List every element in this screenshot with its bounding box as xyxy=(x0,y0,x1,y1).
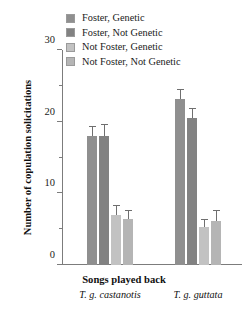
error-bar xyxy=(204,220,205,227)
y-tick-major xyxy=(57,192,62,193)
error-bar-cap xyxy=(177,89,184,90)
legend-item: Foster, Not Genetic xyxy=(66,26,242,41)
y-tick-minor xyxy=(59,228,63,229)
bar xyxy=(175,99,185,265)
bar xyxy=(99,136,109,265)
y-tick-major xyxy=(57,264,62,265)
error-bar-cap xyxy=(101,124,108,125)
y-tick-label: 20 xyxy=(45,105,56,116)
y-tick-major xyxy=(57,121,62,122)
y-tick-minor xyxy=(59,85,63,86)
species-label: T. g. guttata xyxy=(173,289,222,300)
error-bar xyxy=(116,206,117,215)
y-tick-label: 0 xyxy=(50,249,55,260)
bar xyxy=(123,219,133,265)
y-tick-label: 30 xyxy=(45,34,56,45)
bar xyxy=(187,118,197,265)
legend-item: Foster, Genetic xyxy=(66,11,242,26)
error-bar xyxy=(92,127,93,136)
y-tick-label: 10 xyxy=(45,177,56,188)
species-labels: T. g. castanotisT. g. guttata xyxy=(0,289,248,305)
legend-swatch-icon xyxy=(66,14,75,23)
error-bar xyxy=(192,109,193,118)
error-bar-cap xyxy=(201,219,208,220)
species-label: T. g. castanotis xyxy=(79,289,141,300)
bar xyxy=(87,136,97,265)
error-bar-cap xyxy=(213,210,220,211)
error-bar xyxy=(180,90,181,99)
bar xyxy=(199,227,209,265)
error-bar xyxy=(104,125,105,136)
bar xyxy=(211,221,221,265)
error-bar-cap xyxy=(125,210,132,211)
y-axis-line xyxy=(62,50,63,265)
error-bar-cap xyxy=(189,108,196,109)
legend-item-label: Foster, Not Genetic xyxy=(82,28,163,38)
error-bar-cap xyxy=(113,205,120,206)
plot-area: 0102030 xyxy=(62,50,242,265)
x-axis-title: Songs played back xyxy=(0,274,248,285)
chart-figure: Foster, GeneticFoster, Not GeneticNot Fo… xyxy=(0,0,248,314)
y-axis-title: Number of copulation solicitations xyxy=(22,50,38,265)
legend-swatch-icon xyxy=(66,28,75,37)
error-bar xyxy=(216,211,217,222)
legend-item-label: Foster, Genetic xyxy=(82,13,145,23)
bar xyxy=(111,215,121,265)
error-bar-cap xyxy=(89,126,96,127)
y-tick-minor xyxy=(59,157,63,158)
error-bar xyxy=(128,211,129,220)
y-tick-major xyxy=(57,49,62,50)
